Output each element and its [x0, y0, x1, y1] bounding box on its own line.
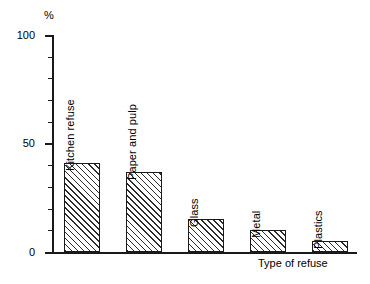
- y-tick-minor-80: [48, 78, 52, 79]
- y-tick-minor-90: [48, 57, 52, 58]
- y-tick-minor-40: [48, 165, 52, 166]
- y-tick-minor-70: [48, 100, 52, 101]
- y-tick-label-0: 0: [29, 247, 35, 258]
- y-tick-major-0: 0: [45, 252, 52, 254]
- y-tick-minor-30: [48, 187, 52, 188]
- bar-label-paper-and-pulp: Paper and pulp: [127, 104, 138, 180]
- bar-label-plastics: Plastics: [313, 210, 324, 249]
- plot-area: 100 50 0 Kitchen refuse Paper and pulp G…: [52, 35, 357, 252]
- y-tick-minor-10: [48, 230, 52, 231]
- y-axis-unit-label: %: [44, 10, 54, 21]
- y-tick-minor-60: [48, 122, 52, 123]
- y-tick-label-50: 50: [23, 138, 35, 149]
- x-axis-title: Type of refuse: [258, 258, 328, 269]
- y-tick-label-100: 100: [17, 30, 35, 41]
- bar-label-glass: Glass: [189, 198, 200, 227]
- y-tick-major-100: 100: [45, 35, 52, 37]
- y-axis-line: [52, 35, 54, 252]
- bar-chart: % 100 50 0 Kitchen refuse Paper and: [0, 0, 370, 284]
- bar-kitchen-refuse: [64, 163, 100, 252]
- x-axis-line: [52, 252, 357, 254]
- bar-paper-and-pulp: [126, 172, 162, 252]
- y-tick-minor-20: [48, 209, 52, 210]
- bar-label-metal: Metal: [251, 211, 262, 238]
- y-tick-major-50: 50: [45, 143, 52, 145]
- bar-label-kitchen-refuse: Kitchen refuse: [65, 99, 76, 171]
